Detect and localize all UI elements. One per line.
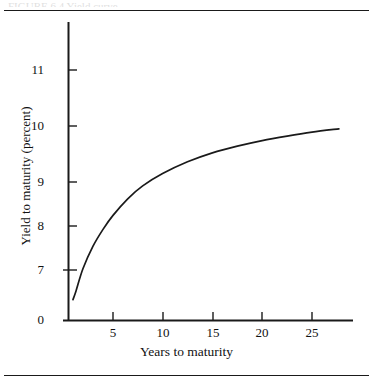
figure-container: FIGURE 6.4 Yield curve 11 10 9 8 7 bbox=[0, 0, 373, 379]
x-axis-title: Years to maturity bbox=[0, 344, 373, 360]
x-tick-label-20: 20 bbox=[249, 326, 275, 339]
y-tick-label-7: 7 bbox=[18, 263, 44, 276]
yield-curve-line bbox=[73, 129, 339, 300]
x-tick-label-15: 15 bbox=[200, 326, 226, 339]
x-axis-ticks bbox=[113, 312, 312, 320]
y-axis-ticks bbox=[63, 70, 77, 270]
y-axis-title-text: Yield to maturity (percent) bbox=[18, 106, 34, 245]
x-tick-label-5: 5 bbox=[100, 326, 126, 339]
y-axis-title: Yield to maturity (percent) bbox=[18, 88, 34, 263]
x-tick-label-25: 25 bbox=[299, 326, 325, 339]
y-tick-label-0: 0 bbox=[18, 313, 44, 326]
yield-curve-plot bbox=[0, 0, 373, 379]
x-tick-label-10: 10 bbox=[150, 326, 176, 339]
y-tick-label-11: 11 bbox=[18, 63, 44, 76]
